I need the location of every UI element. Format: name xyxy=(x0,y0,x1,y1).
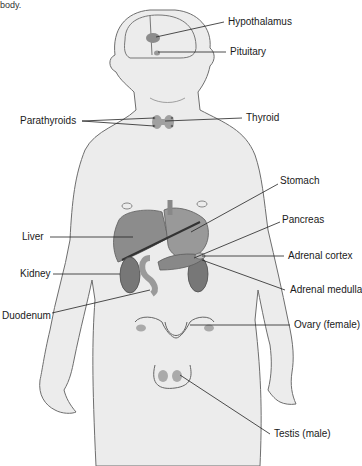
label-pancreas: Pancreas xyxy=(282,214,324,226)
pituitary-gland xyxy=(154,51,160,56)
label-adrenal-cortex: Adrenal cortex xyxy=(288,250,352,262)
testis-left xyxy=(158,370,168,382)
label-ovary: Ovary (female) xyxy=(294,319,360,331)
label-stomach: Stomach xyxy=(280,175,319,187)
label-duodenum: Duodenum xyxy=(2,310,51,322)
label-hypothalamus: Hypothalamus xyxy=(228,16,292,28)
testis-right xyxy=(172,370,182,382)
label-kidney: Kidney xyxy=(20,268,51,280)
ovary-right xyxy=(204,325,214,332)
label-adrenal-medulla: Adrenal medulla xyxy=(290,284,362,296)
label-parathyroids: Parathyroids xyxy=(20,115,76,127)
hypothalamus-gland xyxy=(146,33,160,43)
ovary-left xyxy=(136,325,146,332)
label-liver: Liver xyxy=(22,231,44,243)
label-testis: Testis (male) xyxy=(274,428,331,440)
label-thyroid: Thyroid xyxy=(246,112,279,124)
label-pituitary: Pituitary xyxy=(230,46,266,58)
kidney-left xyxy=(120,257,140,293)
